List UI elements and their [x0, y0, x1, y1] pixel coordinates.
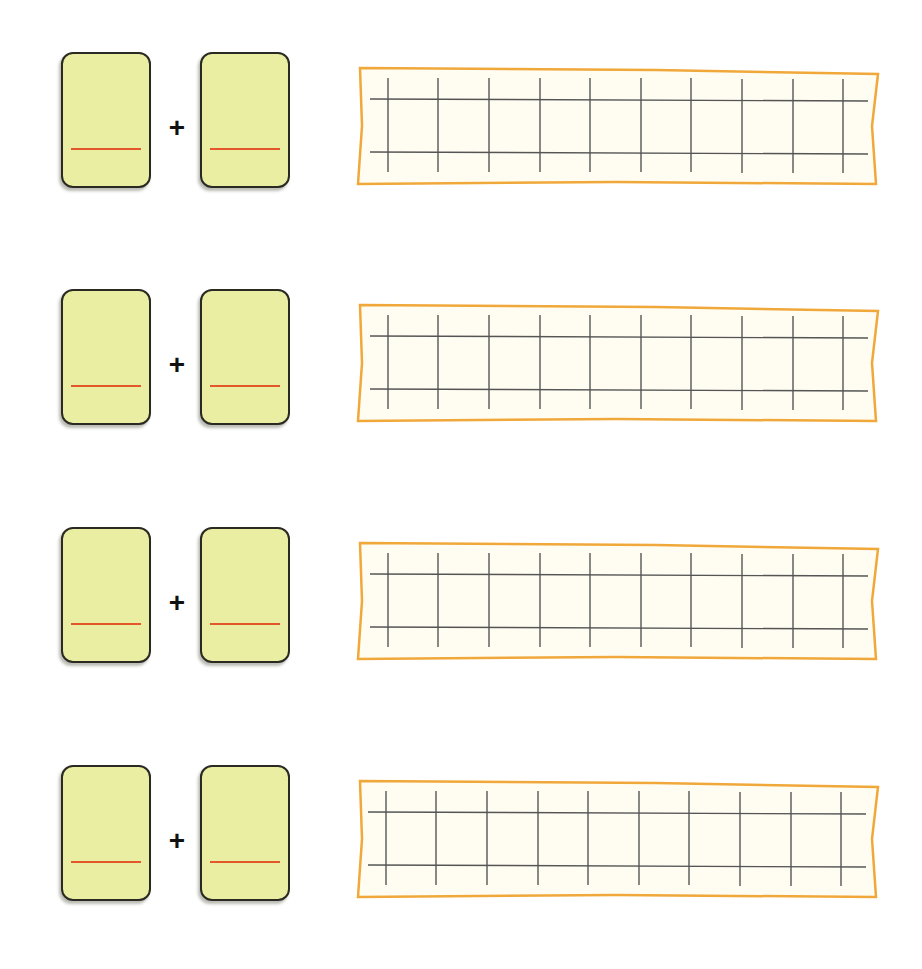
grid-lines-icon: [356, 66, 880, 186]
answer-line: [210, 148, 280, 150]
addend-card-right[interactable]: [200, 527, 290, 663]
answer-line: [71, 385, 141, 387]
addend-card-right[interactable]: [200, 765, 290, 901]
grid-lines-icon: [356, 303, 880, 423]
problem-row-2: +: [0, 289, 922, 449]
writing-grid-box[interactable]: [356, 779, 880, 899]
writing-grid-box[interactable]: [356, 541, 880, 661]
addend-card-left[interactable]: [61, 527, 151, 663]
plus-sign: +: [165, 829, 189, 853]
plus-sign: +: [165, 591, 189, 615]
addend-card-right[interactable]: [200, 52, 290, 188]
problem-row-4: +: [0, 765, 922, 925]
addend-card-left[interactable]: [61, 765, 151, 901]
problem-row-1: +: [0, 52, 922, 212]
writing-grid-box[interactable]: [356, 66, 880, 186]
writing-grid-box[interactable]: [356, 303, 880, 423]
addend-card-right[interactable]: [200, 289, 290, 425]
addend-card-left[interactable]: [61, 289, 151, 425]
addend-card-left[interactable]: [61, 52, 151, 188]
grid-lines-icon: [356, 541, 880, 661]
answer-line: [71, 861, 141, 863]
plus-sign: +: [165, 116, 189, 140]
answer-line: [210, 861, 280, 863]
answer-line: [210, 623, 280, 625]
plus-sign: +: [165, 353, 189, 377]
answer-line: [210, 385, 280, 387]
problem-row-3: +: [0, 527, 922, 687]
answer-line: [71, 623, 141, 625]
answer-line: [71, 148, 141, 150]
grid-lines-icon: [356, 779, 880, 899]
